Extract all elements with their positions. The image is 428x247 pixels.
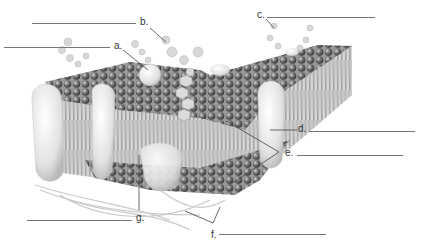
answer-blank-e[interactable] [297,155,403,156]
label-d: d. [298,124,306,134]
label-f: f. [211,230,217,240]
protein-bulge-right [285,48,299,56]
answer-blank-f[interactable] [219,234,326,235]
answer-blank-d[interactable] [309,131,415,132]
label-a: a. [114,41,122,51]
membrane-illustration [0,0,428,247]
leader-b [150,28,166,42]
protein-bulge [210,64,230,76]
label-b: b. [140,17,148,27]
label-c: c. [257,10,265,20]
membrane-diagram: a. b. c. d. e. f. g. [0,0,428,247]
label-e: e. [285,148,293,158]
label-g: g. [136,213,144,223]
answer-blank-c[interactable] [267,17,375,18]
answer-blank-g[interactable] [27,220,132,221]
answer-blank-b[interactable] [32,23,136,24]
answer-blank-a[interactable] [4,47,110,48]
glycoprotein [139,64,161,86]
